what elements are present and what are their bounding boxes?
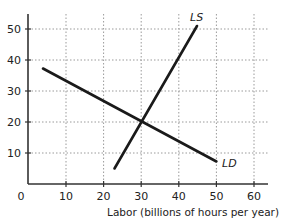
- x-tick-label-10: 10: [59, 190, 73, 203]
- ld-label: LD: [222, 157, 237, 170]
- labor-demand-curve: [43, 69, 216, 162]
- x-axis-title: Labor (billions of hours per year): [107, 206, 279, 218]
- labor-supply-curve: [115, 26, 198, 169]
- y-tick-label-20: 20: [7, 116, 21, 129]
- y-tick-label-50: 50: [7, 23, 21, 36]
- origin-label: 0: [18, 190, 25, 203]
- labor-market-chart: 50 40 30 20 10 0 10 20 30 40 50 60 Labor…: [0, 0, 283, 222]
- x-tick-label-30: 30: [134, 190, 148, 203]
- x-tick-label-40: 40: [172, 190, 186, 203]
- y-tick-label-10: 10: [7, 147, 21, 160]
- ls-label: LS: [190, 11, 203, 24]
- x-tick-label-20: 20: [97, 190, 111, 203]
- x-tick-label-50: 50: [209, 190, 223, 203]
- x-tick-label-60: 60: [247, 190, 261, 203]
- y-tick-label-40: 40: [7, 54, 21, 67]
- y-tick-label-30: 30: [7, 85, 21, 98]
- ticks: [25, 29, 254, 187]
